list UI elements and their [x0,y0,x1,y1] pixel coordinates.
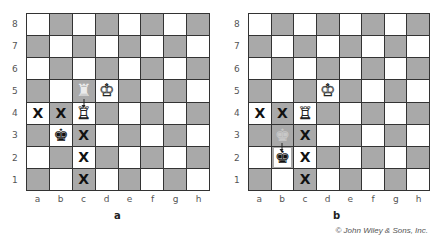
square-f2 [362,147,384,168]
rank-labels: 8 7 6 5 4 3 2 1 [234,13,240,191]
chessboard-b: ♔ X X ♖ ♚ X [248,13,430,191]
square-d6 [96,58,118,79]
rank-label: 4 [234,102,240,124]
square-b8 [50,14,72,35]
file-label: g [164,194,187,204]
rank-label: 1 [12,169,18,191]
chessboard-a: ♜ ♔ X X ♖ ♚ X [26,13,210,191]
x-mark: X [300,150,311,164]
square-h5 [407,80,429,101]
ghost-king-icon: ♚ [275,127,290,144]
x-mark: X [300,172,311,186]
square-f6 [362,58,384,79]
rank-label: 8 [12,13,18,35]
square-g4 [385,103,407,124]
square-b1 [50,169,72,190]
rank-label: 2 [12,147,18,169]
rank-label: 1 [234,169,240,191]
square-b6 [272,58,294,79]
square-e1 [340,169,362,190]
square-e2 [119,147,141,168]
square-f3 [141,125,163,146]
square-f8 [362,14,384,35]
square-g6 [164,58,186,79]
rank-label: 5 [234,80,240,102]
rank-label: 5 [12,80,18,102]
square-c8 [73,14,95,35]
square-e1 [119,169,141,190]
x-mark: X [78,172,89,186]
square-h3 [407,125,429,146]
x-mark: X [254,106,265,120]
x-mark: X [277,106,288,120]
square-a1 [249,169,271,190]
square-c5: ♜ [73,80,95,101]
square-g7 [385,36,407,57]
square-c7 [294,36,316,57]
square-b7 [272,36,294,57]
square-c5 [294,80,316,101]
square-a7 [249,36,271,57]
square-d4 [317,103,339,124]
square-d8 [317,14,339,35]
file-label: h [407,194,430,204]
square-g5 [385,80,407,101]
square-h7 [407,36,429,57]
black-king-icon: ♚ [53,127,68,144]
file-label: c [294,194,317,204]
square-a8 [249,14,271,35]
square-f1 [362,169,384,190]
square-f4 [362,103,384,124]
copyright-notice: © John Wiley & Sons, Inc. [335,226,428,235]
square-e4 [340,103,362,124]
file-labels: a b c d e f g h [248,194,430,204]
square-d1 [317,169,339,190]
square-h6 [187,58,209,79]
square-c8 [294,14,316,35]
square-g8 [164,14,186,35]
square-e4 [119,103,141,124]
rank-label: 6 [234,58,240,80]
square-f7 [362,36,384,57]
square-f6 [141,58,163,79]
square-e8 [340,14,362,35]
ghost-rook-icon: ♜ [76,82,91,99]
square-f3 [362,125,384,146]
square-d6 [317,58,339,79]
file-label: g [385,194,408,204]
square-d3 [317,125,339,146]
square-d1 [96,169,118,190]
square-b5 [272,80,294,101]
square-a4: X [27,103,49,124]
white-king-icon: ♔ [99,82,114,99]
x-mark: X [78,128,89,142]
square-g2 [164,147,186,168]
square-h3 [187,125,209,146]
square-h4 [187,103,209,124]
square-a1 [27,169,49,190]
square-c4: ♖ [294,103,316,124]
square-g3 [164,125,186,146]
file-label: b [271,194,294,204]
square-b4: X [272,103,294,124]
x-mark: X [55,106,66,120]
square-g7 [164,36,186,57]
square-h2 [187,147,209,168]
square-a8 [27,14,49,35]
rank-label: 4 [12,102,18,124]
square-g4 [164,103,186,124]
file-label: d [316,194,339,204]
square-g5 [164,80,186,101]
diagram-a: 8 7 6 5 4 3 2 1 [0,0,216,242]
square-e3 [119,125,141,146]
square-c1: X [73,169,95,190]
square-c1: X [294,169,316,190]
square-d8 [96,14,118,35]
square-h2 [407,147,429,168]
rank-label: 8 [234,13,240,35]
diagram-caption: b [333,210,340,221]
square-g2 [385,147,407,168]
file-label: f [141,194,164,204]
square-e6 [119,58,141,79]
square-c3: X [294,125,316,146]
